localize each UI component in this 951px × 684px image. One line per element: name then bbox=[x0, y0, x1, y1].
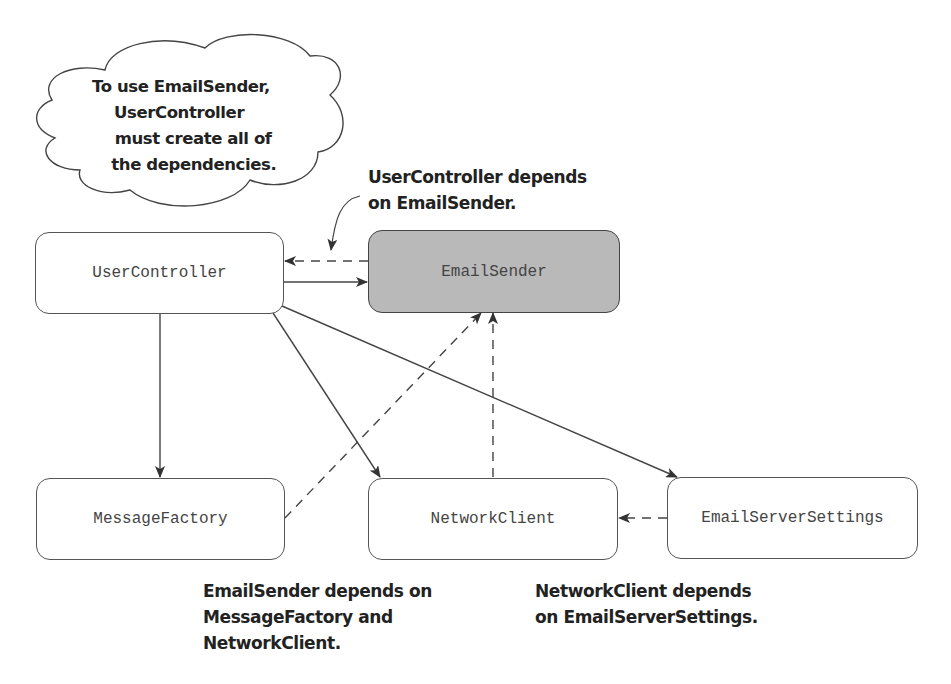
annotation-usercontroller-line-2: on EmailSender. bbox=[368, 193, 516, 213]
annotation-emailsender-line-2: MessageFactory and bbox=[203, 607, 393, 627]
annotation-networkclient-line-1: NetworkClient depends bbox=[535, 581, 751, 601]
node-email-server-settings: EmailServerSettings bbox=[667, 477, 918, 559]
annotation-networkclient-depends: NetworkClient depends on EmailServerSett… bbox=[535, 578, 758, 630]
node-email-sender: EmailSender bbox=[368, 230, 620, 313]
node-network-client: NetworkClient bbox=[368, 478, 618, 560]
cloud-note-line-4: the dependencies. bbox=[92, 152, 276, 178]
node-message-factory: MessageFactory bbox=[36, 478, 285, 560]
edge-usercontroller-to-emailserversettings bbox=[282, 306, 677, 477]
cloud-note-line-2: UserController bbox=[92, 100, 276, 126]
edge-usercontroller-to-networkclient bbox=[273, 313, 380, 477]
annotation-networkclient-line-2: on EmailServerSettings. bbox=[535, 607, 758, 627]
node-user-controller-label: UserController bbox=[92, 264, 226, 282]
cloud-note-line-3: must create all of bbox=[92, 126, 276, 152]
cloud-note: To use EmailSender, UserController must … bbox=[92, 74, 276, 178]
annotation-emailsender-depends: EmailSender depends on MessageFactory an… bbox=[203, 578, 432, 656]
node-email-sender-label: EmailSender bbox=[441, 263, 547, 281]
node-email-server-settings-label: EmailServerSettings bbox=[701, 509, 883, 527]
node-network-client-label: NetworkClient bbox=[431, 510, 556, 528]
callout-arrow-user-controller-dep bbox=[331, 196, 360, 250]
cloud-note-line-1: To use EmailSender, bbox=[92, 74, 276, 100]
annotation-usercontroller-depends: UserController depends on EmailSender. bbox=[368, 164, 587, 216]
node-message-factory-label: MessageFactory bbox=[93, 510, 227, 528]
node-user-controller: UserController bbox=[35, 232, 284, 314]
annotation-emailsender-line-1: EmailSender depends on bbox=[203, 581, 432, 601]
annotation-emailsender-line-3: NetworkClient. bbox=[203, 633, 341, 653]
annotation-usercontroller-line-1: UserController depends bbox=[368, 167, 587, 187]
